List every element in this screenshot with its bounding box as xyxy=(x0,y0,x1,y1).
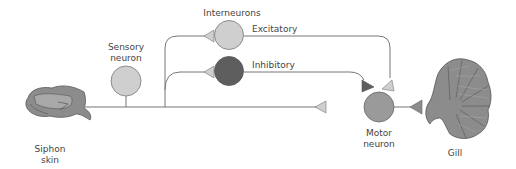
label-gill: Gill xyxy=(440,148,470,159)
label-siphon-skin: Siphon skin xyxy=(30,144,70,166)
synapse-inhibitory-output xyxy=(362,80,374,92)
excitatory-interneuron xyxy=(215,21,244,50)
siphon-skin-illustration xyxy=(26,86,91,120)
synapse-excitatory-input xyxy=(204,30,214,42)
label-interneurons: Interneurons xyxy=(200,8,264,19)
label-motor-neuron: Motor neuron xyxy=(353,128,405,150)
sensory-neuron-body xyxy=(111,66,141,96)
motor-neuron xyxy=(364,92,394,122)
inhibitory-interneuron xyxy=(215,57,244,86)
synapse-excitatory-output xyxy=(382,80,394,91)
label-excitatory: Excitatory xyxy=(252,24,312,35)
gill-illustration xyxy=(426,59,491,139)
synapse-inhibitory-input xyxy=(204,66,214,78)
branch-to-inhibitory xyxy=(165,72,206,90)
synapse-sensory-motor xyxy=(315,101,326,113)
synapse-motor-gill xyxy=(410,100,422,114)
label-inhibitory: Inhibitory xyxy=(252,60,312,71)
inhibitory-axon xyxy=(244,72,364,80)
label-sensory-neuron: Sensory neuron xyxy=(100,42,152,64)
